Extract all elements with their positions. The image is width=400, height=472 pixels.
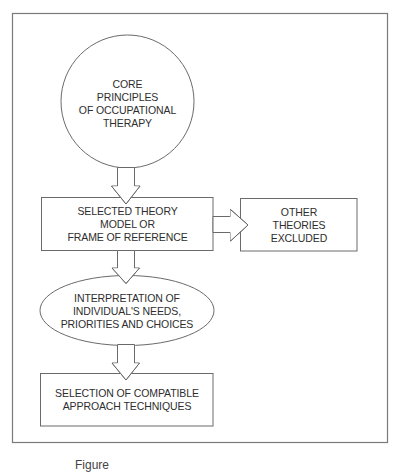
label-line: MODEL OR: [100, 218, 155, 231]
label-line: APPROACH TECHNIQUES: [63, 400, 192, 413]
label-line: FRAME OF REFERENCE: [67, 231, 187, 244]
label-line: PRIORITIES AND CHOICES: [61, 318, 194, 331]
arrow-head-overlay-1: [112, 187, 140, 204]
label-line: THERAPY: [103, 117, 152, 130]
label-line: INTERPRETATION OF: [74, 292, 180, 305]
label-line: PRINCIPLES: [97, 91, 158, 104]
selected-theory-label: SELECTED THEORY MODEL OR FRAME OF REFERE…: [42, 203, 213, 245]
label-line: SELECTION OF COMPATIBLE: [55, 387, 199, 400]
label-line: SELECTED THEORY: [77, 205, 177, 218]
label-line: INDIVIDUAL'S NEEDS,: [73, 305, 181, 318]
other-theories-label: OTHER THEORIES EXCLUDED: [241, 204, 357, 246]
core-principles-label: CORE PRINCIPLES OF OCCUPATIONAL THERAPY: [62, 78, 193, 130]
interpretation-label: INTERPRETATION OF INDIVIDUAL'S NEEDS, PR…: [42, 290, 212, 332]
label-line: EXCLUDED: [271, 232, 327, 245]
figure-caption: Figure: [75, 458, 335, 472]
selection-techniques-label: SELECTION OF COMPATIBLE APPROACH TECHNIQ…: [41, 386, 213, 414]
label-line: OF OCCUPATIONAL: [79, 104, 176, 117]
arrow-head-overlay: [113, 364, 140, 380]
label-line: THEORIES: [273, 219, 326, 232]
label-line: OTHER: [281, 206, 317, 219]
label-line: CORE: [113, 78, 143, 91]
